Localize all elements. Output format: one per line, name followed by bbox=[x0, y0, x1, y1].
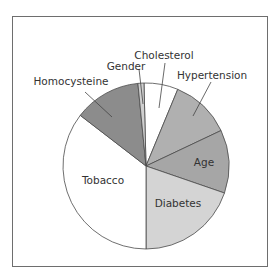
label-diabetes: Diabetes bbox=[155, 197, 202, 209]
pie-chart: Cholesterol Gender Homocysteine Hyperten… bbox=[0, 0, 278, 279]
label-hypertension: Hypertension bbox=[177, 69, 247, 81]
label-tobacco: Tobacco bbox=[81, 174, 124, 186]
label-homocysteine: Homocysteine bbox=[33, 75, 108, 87]
label-gender: Gender bbox=[107, 60, 146, 72]
label-age: Age bbox=[194, 156, 214, 168]
